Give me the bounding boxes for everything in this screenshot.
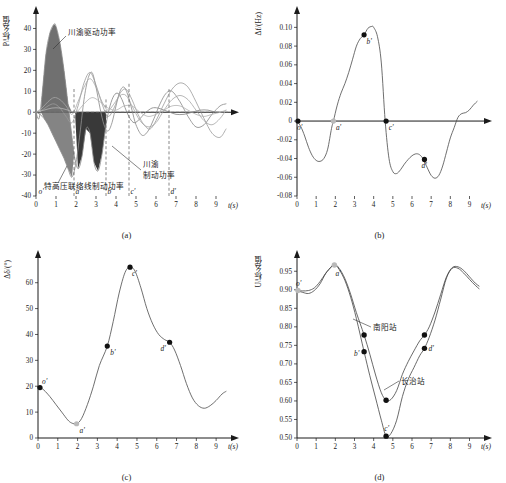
svg-text:8: 8 xyxy=(449,443,453,451)
svg-text:4: 4 xyxy=(372,201,376,209)
svg-text:3: 3 xyxy=(96,443,100,451)
svg-text:长治站: 长治站 xyxy=(401,376,425,386)
svg-text:0.60: 0.60 xyxy=(279,397,292,405)
svg-text:d': d' xyxy=(421,161,427,170)
caption-c: (c) xyxy=(0,472,253,482)
svg-text:b': b' xyxy=(367,37,373,46)
svg-text:川渝制动功率: 川渝制动功率 xyxy=(143,159,175,180)
svg-text:1: 1 xyxy=(56,443,60,451)
svg-text:7: 7 xyxy=(429,201,433,209)
svg-text:-10: -10 xyxy=(21,130,31,138)
svg-text:0.90: 0.90 xyxy=(279,286,292,294)
svg-text:3: 3 xyxy=(94,201,98,209)
svg-text:60: 60 xyxy=(26,279,34,287)
svg-text:a': a' xyxy=(335,269,341,278)
svg-text:0.70: 0.70 xyxy=(279,360,292,368)
svg-text:0: 0 xyxy=(34,201,38,209)
svg-text:2: 2 xyxy=(334,201,338,209)
svg-text:0.80: 0.80 xyxy=(279,323,292,331)
svg-text:3: 3 xyxy=(353,443,357,451)
svg-text:0.10: 0.10 xyxy=(279,24,292,32)
caption-a: (a) xyxy=(0,230,253,240)
svg-text:9: 9 xyxy=(468,443,472,451)
svg-text:d': d' xyxy=(428,344,434,353)
svg-text:5: 5 xyxy=(135,443,139,451)
svg-text:7: 7 xyxy=(175,443,179,451)
svg-text:特高压联络线制动功率: 特高压联络线制动功率 xyxy=(44,181,124,191)
svg-text:2: 2 xyxy=(76,443,80,451)
svg-text:50: 50 xyxy=(26,305,34,313)
figure-grid: P/标幺值 -40-30-20-100102030400123456789o'a… xyxy=(0,0,506,483)
svg-text:0.04: 0.04 xyxy=(279,80,292,88)
svg-text:d': d' xyxy=(171,187,177,196)
svg-text:5: 5 xyxy=(134,201,138,209)
svg-text:1: 1 xyxy=(314,443,318,451)
svg-text:-0.08: -0.08 xyxy=(277,192,292,200)
subplot-a: P/标幺值 -40-30-20-100102030400123456789o'a… xyxy=(0,0,253,242)
svg-text:8: 8 xyxy=(195,443,199,451)
svg-text:0: 0 xyxy=(295,443,299,451)
svg-text:4: 4 xyxy=(114,201,118,209)
svg-text:c': c' xyxy=(132,269,137,278)
svg-text:0.50: 0.50 xyxy=(279,434,292,442)
caption-d: (d) xyxy=(253,472,506,482)
svg-text:6: 6 xyxy=(154,201,158,209)
svg-text:-0.02: -0.02 xyxy=(277,136,292,144)
svg-text:d': d' xyxy=(161,344,167,353)
svg-text:0.08: 0.08 xyxy=(279,43,292,51)
svg-text:30: 30 xyxy=(24,46,32,54)
svg-text:7: 7 xyxy=(174,201,178,209)
svg-text:8: 8 xyxy=(194,201,198,209)
x-axis-label-d: t(s) xyxy=(481,442,491,451)
svg-text:o': o' xyxy=(297,123,303,132)
svg-text:8: 8 xyxy=(449,201,453,209)
x-axis-label-b: t(s) xyxy=(481,201,491,210)
svg-text:南阳站: 南阳站 xyxy=(373,322,397,332)
svg-text:0.06: 0.06 xyxy=(279,61,292,69)
svg-text:0: 0 xyxy=(29,434,33,442)
svg-text:o': o' xyxy=(296,279,302,288)
svg-text:6: 6 xyxy=(155,443,159,451)
svg-text:-40: -40 xyxy=(21,192,31,200)
svg-text:b': b' xyxy=(354,349,360,358)
subplot-c: Δδ/(°) 01020304050600123456789o'a'b'c'd'… xyxy=(0,242,253,483)
svg-text:c': c' xyxy=(131,187,136,196)
svg-text:a': a' xyxy=(80,426,86,435)
svg-text:a': a' xyxy=(336,123,342,132)
x-axis-label-c: t(s) xyxy=(228,442,238,451)
caption-b: (b) xyxy=(253,230,506,240)
svg-text:7: 7 xyxy=(429,443,433,451)
svg-text:1: 1 xyxy=(54,201,58,209)
svg-text:0: 0 xyxy=(295,201,299,209)
svg-text:2: 2 xyxy=(334,443,338,451)
svg-text:10: 10 xyxy=(26,409,34,417)
svg-text:0.85: 0.85 xyxy=(279,305,292,313)
svg-text:o': o' xyxy=(42,377,48,386)
svg-text:9: 9 xyxy=(468,201,472,209)
svg-text:10: 10 xyxy=(24,88,32,96)
svg-text:30: 30 xyxy=(26,357,34,365)
svg-text:3: 3 xyxy=(353,201,357,209)
svg-text:1: 1 xyxy=(314,201,318,209)
svg-text:9: 9 xyxy=(214,443,218,451)
svg-text:c': c' xyxy=(389,123,394,132)
svg-text:-20: -20 xyxy=(21,151,31,159)
svg-text:0.65: 0.65 xyxy=(279,379,292,387)
svg-text:-0.04: -0.04 xyxy=(277,155,292,163)
svg-text:6: 6 xyxy=(410,443,414,451)
svg-text:b': b' xyxy=(110,348,116,357)
subplot-d: U/标幺值 0.500.550.600.650.700.750.800.850.… xyxy=(253,242,506,483)
svg-text:20: 20 xyxy=(24,67,32,75)
svg-text:9: 9 xyxy=(214,201,218,209)
svg-text:40: 40 xyxy=(24,25,32,33)
svg-text:4: 4 xyxy=(115,443,119,451)
svg-text:0: 0 xyxy=(36,443,40,451)
svg-text:-0.06: -0.06 xyxy=(277,174,292,182)
subplot-b: Δf/(Hz) -0.08-0.06-0.04-0.0200.020.040.0… xyxy=(253,0,506,242)
svg-text:-30: -30 xyxy=(21,171,31,179)
svg-text:5: 5 xyxy=(391,201,395,209)
svg-text:20: 20 xyxy=(26,383,34,391)
svg-text:4: 4 xyxy=(372,443,376,451)
svg-text:0.02: 0.02 xyxy=(279,99,292,107)
svg-text:0: 0 xyxy=(288,117,292,125)
